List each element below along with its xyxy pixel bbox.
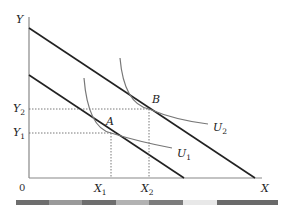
x-axis-label: X [260,182,270,195]
diagram-canvas: Y X 0 A B Y2 Y1 X1 X2 U1 U2 [0,0,288,209]
y1-label: Y1 [13,126,25,141]
color-strip [16,200,278,205]
y2-label: Y2 [13,102,25,117]
x2-label: X2 [140,182,154,197]
u1-label: U1 [177,147,191,162]
point-a-label: A [105,115,114,128]
x1-label: X1 [93,182,107,197]
y-axis-label: Y [16,13,25,26]
origin-label: 0 [19,182,25,193]
budget-line-outer [29,28,255,178]
u2-label: U2 [213,121,227,136]
point-b-label: B [151,93,160,106]
indifference-curve-u2 [120,58,208,124]
